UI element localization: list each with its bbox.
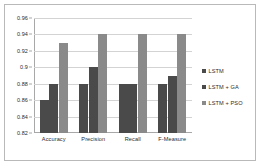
- y-tick-mark: [29, 50, 32, 51]
- bar: [138, 34, 147, 133]
- bar: [119, 84, 128, 133]
- y-tick-mark: [29, 34, 32, 35]
- y-tick-label: 0.94: [17, 31, 28, 37]
- y-tick-mark: [29, 100, 32, 101]
- bar-group: [119, 18, 147, 133]
- y-tick-label: 0.9: [20, 64, 28, 70]
- legend-swatch-icon: [202, 101, 206, 105]
- x-tick-label: Precision: [81, 136, 105, 142]
- bar: [59, 43, 68, 133]
- legend-entry: LSTM + PSO: [202, 99, 256, 106]
- x-tick-label: Accuracy: [42, 136, 66, 142]
- y-tick-label: 0.84: [17, 114, 28, 120]
- bar: [177, 34, 186, 133]
- bar-group: [40, 18, 68, 133]
- legend-entry: LSTM: [202, 67, 256, 74]
- legend-swatch-icon: [202, 85, 206, 89]
- y-tick-label: 0.82: [17, 130, 28, 136]
- y-tick-mark: [29, 18, 32, 19]
- bar-series-layer: [34, 18, 192, 133]
- plot-area: [34, 18, 192, 133]
- bar: [89, 67, 98, 133]
- legend-entry: LSTM + GA: [202, 83, 256, 90]
- bar-group: [158, 18, 186, 133]
- bar: [40, 100, 49, 133]
- y-tick-label: 0.88: [17, 81, 28, 87]
- chart-legend: LSTMLSTM + GALSTM + PSO: [202, 67, 256, 115]
- y-tick-mark: [29, 116, 32, 117]
- x-axis: AccuracyPrecisionRecallF-Measure: [34, 136, 192, 150]
- y-tick-mark: [29, 133, 32, 134]
- bar: [98, 34, 107, 133]
- chart-frame: 0.960.940.920.90.880.860.840.82 Accuracy…: [4, 4, 256, 161]
- bar: [49, 84, 58, 133]
- y-tick-mark: [29, 67, 32, 68]
- bar: [79, 84, 88, 133]
- legend-swatch-icon: [202, 69, 206, 73]
- y-tick-label: 0.96: [17, 15, 28, 21]
- legend-label: LSTM + PSO: [209, 100, 243, 106]
- x-tick-label: F-Measure: [158, 136, 186, 142]
- y-tick-label: 0.92: [17, 48, 28, 54]
- y-tick-mark: [29, 83, 32, 84]
- bar: [128, 84, 137, 133]
- y-axis: 0.960.940.920.90.880.860.840.82: [5, 18, 32, 133]
- y-tick-label: 0.86: [17, 97, 28, 103]
- bar-group: [79, 18, 107, 133]
- legend-label: LSTM: [209, 68, 224, 74]
- x-tick-label: Recall: [125, 136, 141, 142]
- bar: [158, 84, 167, 133]
- legend-label: LSTM + GA: [209, 84, 239, 90]
- bar: [168, 76, 177, 134]
